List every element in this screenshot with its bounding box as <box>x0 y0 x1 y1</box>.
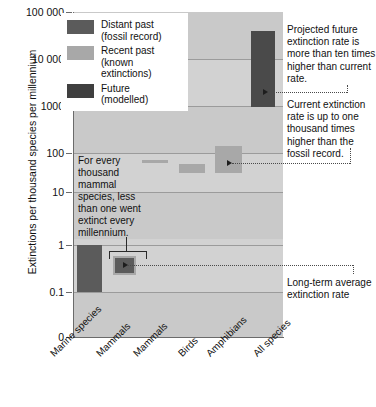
chart-figure: Extinctions per thousand species per mil… <box>0 0 376 407</box>
leader-arrow-current-rate <box>227 160 232 166</box>
annotation-future-rate: Projected future extinction rate is more… <box>287 24 376 85</box>
leader-line-future-rate <box>268 92 347 93</box>
leader-arrow-long-term <box>123 262 128 268</box>
legend-label-line: extinctions) <box>101 68 154 80</box>
in-plot-note: For every thousand mammal species, less … <box>78 155 150 239</box>
y-tick-10 <box>66 192 72 193</box>
leader-stem-future-rate <box>347 85 348 93</box>
x-axis-line <box>73 337 284 338</box>
annotation-long-term-rate: Long-term average extinction rate <box>287 277 373 301</box>
mammals-bracket <box>109 251 147 259</box>
leader-line-long-term <box>128 265 353 266</box>
legend-label-line: Future <box>101 83 148 95</box>
y-tick-label-0.1: 0.1 <box>49 286 64 298</box>
leader-line-current-rate <box>232 163 350 164</box>
legend: Distant past (fossil record) Recent past… <box>61 13 188 111</box>
legend-swatch-distant-past <box>67 20 94 34</box>
plot-band <box>73 106 283 153</box>
plot-band <box>73 292 283 337</box>
mammals-bracket-stem <box>126 237 127 252</box>
legend-swatch-recent-past <box>67 46 94 60</box>
legend-label-future: Future (modelled) <box>101 83 148 106</box>
x-axis-tick-labels: Marine species Mammals Mammals Birds Amp… <box>0 340 376 407</box>
y-tick-label-100000: 100 000 <box>26 6 64 18</box>
legend-item-distant-past: Distant past (fossil record) <box>67 19 183 42</box>
y-tick-0.1 <box>66 292 72 293</box>
leader-stem-long-term <box>353 265 354 274</box>
legend-label-recent-past: Recent past (known extinctions) <box>101 45 154 80</box>
bar-all-species-future <box>251 31 275 107</box>
gridline-100 <box>73 153 283 154</box>
leader-stem-current-rate <box>350 148 351 164</box>
legend-label-line: Recent past <box>101 45 154 57</box>
annotation-current-rate: Current extinction rate is up to one tho… <box>287 99 376 160</box>
y-tick-label-1: 1 <box>58 239 64 251</box>
y-tick-100 <box>66 153 72 154</box>
legend-label-distant-past: Distant past (fossil record) <box>101 19 162 42</box>
bar-birds-recent-past <box>179 164 205 173</box>
legend-label-line: Distant past <box>101 19 162 31</box>
legend-label-line: (fossil record) <box>101 31 162 43</box>
leader-arrow-future-rate <box>263 89 268 95</box>
gridline-0.1 <box>73 292 283 293</box>
legend-item-future: Future (modelled) <box>67 83 183 106</box>
y-tick-label-100: 100 <box>46 147 64 159</box>
bar-marine-species-distant-past <box>77 245 102 292</box>
y-tick-label-10: 10 <box>52 186 64 198</box>
legend-label-line: (modelled) <box>101 94 148 106</box>
legend-swatch-future <box>67 84 94 98</box>
gridline-1 <box>73 245 283 246</box>
legend-label-line: (known <box>101 57 154 69</box>
y-tick-label-10000: 10 000 <box>32 53 64 65</box>
y-tick-1 <box>66 245 72 246</box>
x-tick-label-birds: Birds <box>176 335 200 359</box>
legend-item-recent-past: Recent past (known extinctions) <box>67 45 183 80</box>
